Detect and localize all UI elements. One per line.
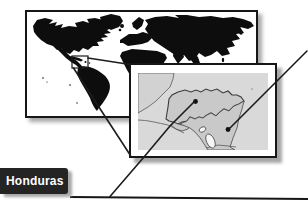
content-card — [70, 196, 308, 207]
inset-map-box — [129, 63, 277, 158]
honduras-label: Honduras — [0, 168, 68, 194]
honduras-label-text: Honduras — [6, 174, 64, 188]
central-america-map — [138, 73, 268, 150]
figure-canvas: Honduras — [0, 0, 308, 207]
island-speck — [251, 88, 253, 90]
